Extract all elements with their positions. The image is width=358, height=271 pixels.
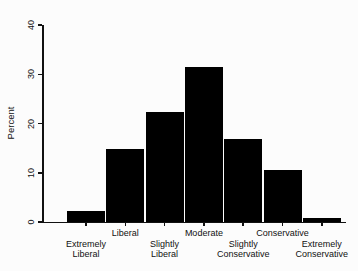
bar-0 [67, 211, 105, 222]
y-tick-4 [38, 24, 43, 26]
x-tick-label-2: SlightlyLiberal [133, 239, 197, 259]
y-tick-label-1: 10 [24, 161, 38, 185]
y-tick-label-3: 30 [24, 62, 38, 86]
x-tick-2 [164, 222, 166, 226]
x-tick-6 [321, 222, 323, 226]
y-tick-label-4: 40 [24, 13, 38, 37]
y-tick-label-2: 20 [24, 112, 38, 136]
bar-5 [264, 170, 302, 222]
x-tick-label-0: ExtremelyLiberal [54, 239, 118, 259]
x-tick-label-4: SlightlyConservative [211, 239, 275, 259]
y-axis-line [42, 25, 44, 222]
x-tick-label-5: Conservative [251, 228, 315, 238]
x-tick-label-1: Liberal [93, 228, 157, 238]
y-tick-0 [38, 221, 43, 223]
y-tick-1 [38, 172, 43, 174]
x-tick-label-3: Moderate [172, 228, 236, 238]
bar-4 [224, 139, 262, 222]
bar-1 [106, 149, 144, 222]
x-tick-3 [203, 222, 205, 226]
y-tick-2 [38, 123, 43, 125]
x-tick-0 [85, 222, 87, 226]
y-axis-title: Percent [3, 93, 17, 153]
x-tick-5 [282, 222, 284, 226]
x-tick-4 [242, 222, 244, 226]
x-tick-1 [125, 222, 127, 226]
bar-2 [146, 112, 184, 222]
ideology-bar-chart: Percent 010203040 ExtremelyLiberalLibera… [0, 0, 358, 271]
x-tick-label-6: ExtremelyConservative [290, 239, 354, 259]
y-tick-label-0: 0 [24, 210, 38, 234]
y-tick-3 [38, 74, 43, 76]
bar-3 [185, 67, 223, 222]
